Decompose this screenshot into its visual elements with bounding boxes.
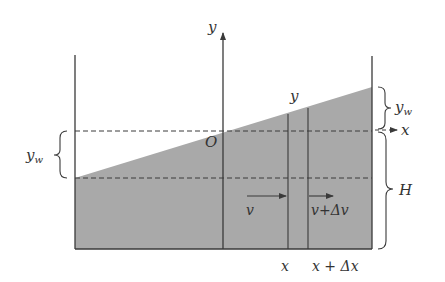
right-h-brace: [378, 132, 393, 249]
velocity-in-label: v: [246, 202, 254, 218]
right-yw-label: yw: [394, 98, 412, 117]
origin-label: O: [205, 133, 217, 151]
depth-h-label: H: [398, 181, 413, 199]
x-plus-dx-label: x + Δx: [312, 258, 359, 274]
x-position-label: x: [281, 258, 289, 274]
surface-height-label: y: [289, 87, 299, 105]
x-axis-label: x: [401, 121, 410, 139]
y-axis-label: y: [207, 18, 217, 36]
right-yw-brace: [378, 87, 391, 129]
velocity-out-label: v+Δv: [311, 202, 349, 218]
channel-flow-diagram: x y O y v v+Δv x x + Δx yw yw H: [0, 0, 445, 282]
left-yw-label: yw: [25, 146, 43, 165]
left-yw-brace: [54, 131, 67, 178]
